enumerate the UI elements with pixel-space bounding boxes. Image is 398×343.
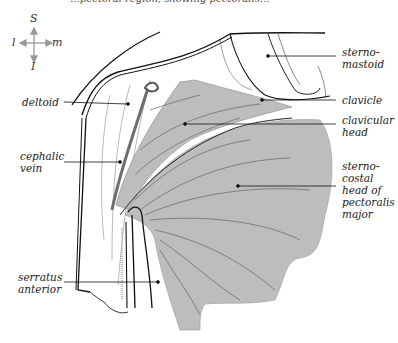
compass-superior: S	[30, 12, 38, 25]
label-sternocostal-head: sterno- costal head of pectoralis major	[342, 160, 395, 220]
orientation-compass-icon	[20, 28, 52, 62]
label-deltoid: deltoid	[22, 96, 59, 108]
label-sternomastoid: sterno- mastoid	[342, 46, 384, 70]
label-cephalic-vein: cephalic vein	[20, 150, 64, 174]
label-clavicular-head: clavicular head	[342, 114, 394, 138]
compass-lateral: l	[12, 36, 16, 49]
label-clavicle: clavicle	[342, 94, 382, 106]
label-serratus-anterior: serratus anterior	[18, 271, 62, 295]
compass-inferior: I	[31, 60, 35, 73]
compass-medial: m	[52, 36, 62, 49]
